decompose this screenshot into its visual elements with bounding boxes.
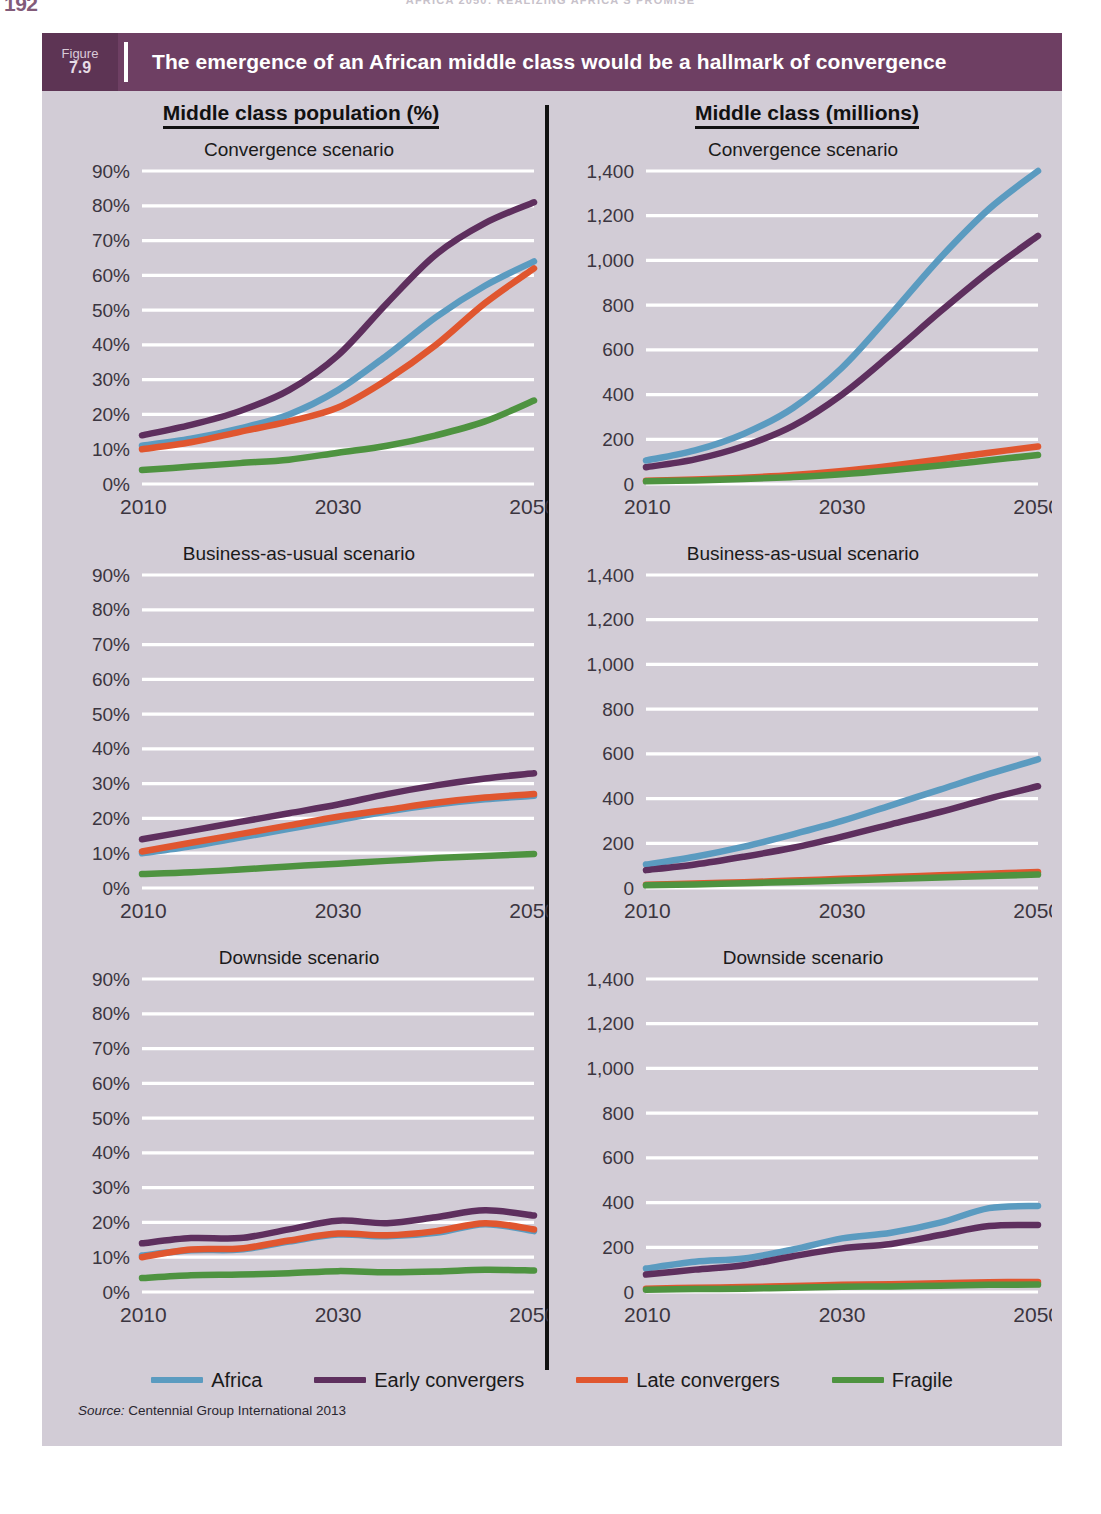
y-tick-label: 0 — [623, 1282, 634, 1303]
running-head: 192 AFRICA 2050: REALIZING AFRICA'S PROM… — [0, 0, 1101, 22]
y-tick-label: 90% — [92, 161, 130, 182]
y-tick-label: 90% — [92, 565, 130, 586]
column-heading-percent: Middle class population (%) — [62, 101, 540, 125]
y-tick-label: 50% — [92, 704, 130, 725]
legend-swatch-icon — [576, 1377, 628, 1383]
legend-item-late-convergers[interactable]: Late convergers — [576, 1369, 779, 1392]
y-tick-label: 60% — [92, 669, 130, 690]
y-tick-label: 70% — [92, 1038, 130, 1059]
y-tick-label: 40% — [92, 1142, 130, 1163]
figure-number: 7.9 — [69, 60, 91, 77]
x-tick-label: 2010 — [120, 1303, 167, 1326]
y-tick-label: 70% — [92, 634, 130, 655]
running-head-title: AFRICA 2050: REALIZING AFRICA'S PROMISE — [0, 0, 1101, 6]
y-tick-label: 50% — [92, 1108, 130, 1129]
panel-grid: Convergence scenario0%10%20%30%40%50%60%… — [42, 137, 1062, 1347]
column-heading-percent-text: Middle class population (%) — [163, 101, 440, 129]
x-tick-label: 2050 — [509, 1303, 548, 1326]
x-tick-label: 2050 — [509, 899, 548, 922]
legend-swatch-icon — [151, 1377, 203, 1383]
x-tick-label: 2010 — [624, 495, 671, 518]
legend-item-early-convergers[interactable]: Early convergers — [314, 1369, 524, 1392]
y-tick-label: 200 — [602, 833, 634, 854]
y-tick-label: 40% — [92, 334, 130, 355]
chart-panel-mil-convergence: Convergence scenario02004006008001,0001,… — [554, 137, 1052, 540]
y-tick-label: 1,000 — [586, 1058, 634, 1079]
series-line-early-convergers — [646, 1225, 1038, 1275]
y-tick-label: 400 — [602, 1192, 634, 1213]
column-headings: Middle class population (%) Middle class… — [42, 95, 1062, 137]
y-tick-label: 20% — [92, 808, 130, 829]
chart-legend: AfricaEarly convergersLate convergersFra… — [42, 1363, 1062, 1397]
y-tick-label: 1,400 — [586, 565, 634, 586]
y-tick-label: 1,000 — [586, 250, 634, 271]
y-tick-label: 20% — [92, 1212, 130, 1233]
y-tick-label: 800 — [602, 295, 634, 316]
series-line-early-convergers — [646, 236, 1038, 467]
chart-panel-pct-convergence: Convergence scenario0%10%20%30%40%50%60%… — [50, 137, 548, 540]
series-line-africa — [646, 759, 1038, 864]
figure-label-word: Figure — [62, 47, 99, 61]
y-tick-label: 70% — [92, 230, 130, 251]
y-tick-label: 20% — [92, 404, 130, 425]
y-tick-label: 800 — [602, 699, 634, 720]
figure-title-bar: Figure 7.9 The emergence of an African m… — [42, 33, 1062, 91]
chart-plot-mil-downside: 02004006008001,0001,2001,400201020302050 — [554, 945, 1052, 1348]
chart-panel-mil-bau: Business-as-usual scenario02004006008001… — [554, 541, 1052, 944]
y-tick-label: 200 — [602, 1237, 634, 1258]
y-tick-label: 400 — [602, 788, 634, 809]
figure-card: Figure 7.9 The emergence of an African m… — [42, 33, 1062, 1446]
chart-plot-pct-downside: 0%10%20%30%40%50%60%70%80%90%20102030205… — [50, 945, 548, 1348]
y-tick-label: 200 — [602, 429, 634, 450]
x-tick-label: 2050 — [1013, 1303, 1052, 1326]
x-tick-label: 2030 — [315, 1303, 362, 1326]
y-tick-label: 0% — [103, 1282, 131, 1303]
y-tick-label: 0% — [103, 474, 131, 495]
y-tick-label: 10% — [92, 439, 130, 460]
y-tick-label: 80% — [92, 1003, 130, 1024]
y-tick-label: 600 — [602, 339, 634, 360]
figure-title: The emergence of an African middle class… — [128, 33, 1062, 91]
column-heading-millions: Middle class (millions) — [562, 101, 1052, 125]
x-tick-label: 2010 — [624, 899, 671, 922]
series-line-africa — [646, 1206, 1038, 1269]
chart-plot-pct-bau: 0%10%20%30%40%50%60%70%80%90%20102030205… — [50, 541, 548, 944]
y-tick-label: 800 — [602, 1103, 634, 1124]
y-tick-label: 600 — [602, 743, 634, 764]
legend-item-africa[interactable]: Africa — [151, 1369, 262, 1392]
y-tick-label: 60% — [92, 1073, 130, 1094]
legend-label: Fragile — [892, 1369, 953, 1392]
y-tick-label: 80% — [92, 599, 130, 620]
y-tick-label: 1,000 — [586, 654, 634, 675]
x-tick-label: 2050 — [1013, 495, 1052, 518]
x-tick-label: 2030 — [819, 899, 866, 922]
y-tick-label: 600 — [602, 1147, 634, 1168]
y-tick-label: 1,200 — [586, 205, 634, 226]
y-tick-label: 0 — [623, 878, 634, 899]
source-note: Source: Centennial Group International 2… — [78, 1403, 346, 1418]
x-tick-label: 2030 — [819, 495, 866, 518]
chart-panel-pct-downside: Downside scenario0%10%20%30%40%50%60%70%… — [50, 945, 548, 1348]
x-tick-label: 2010 — [624, 1303, 671, 1326]
x-tick-label: 2010 — [120, 899, 167, 922]
series-line-fragile — [142, 1270, 534, 1278]
y-tick-label: 40% — [92, 738, 130, 759]
legend-swatch-icon — [314, 1377, 366, 1383]
y-tick-label: 0 — [623, 474, 634, 495]
chart-plot-mil-convergence: 02004006008001,0001,2001,400201020302050 — [554, 137, 1052, 540]
legend-item-fragile[interactable]: Fragile — [832, 1369, 953, 1392]
chart-plot-pct-convergence: 0%10%20%30%40%50%60%70%80%90%20102030205… — [50, 137, 548, 540]
y-tick-label: 0% — [103, 878, 131, 899]
y-tick-label: 1,200 — [586, 609, 634, 630]
y-tick-label: 30% — [92, 1177, 130, 1198]
y-tick-label: 400 — [602, 384, 634, 405]
column-heading-millions-text: Middle class (millions) — [695, 101, 919, 129]
x-tick-label: 2050 — [1013, 899, 1052, 922]
y-tick-label: 50% — [92, 300, 130, 321]
legend-swatch-icon — [832, 1377, 884, 1383]
y-tick-label: 80% — [92, 195, 130, 216]
y-tick-label: 1,200 — [586, 1013, 634, 1034]
x-tick-label: 2050 — [509, 495, 548, 518]
x-tick-label: 2010 — [120, 495, 167, 518]
x-tick-label: 2030 — [315, 495, 362, 518]
